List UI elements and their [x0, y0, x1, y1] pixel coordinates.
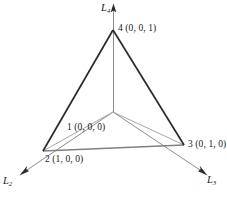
vertex-label-3: 3 (0, 1, 0)	[188, 140, 226, 150]
outer-edge-4-2	[43, 30, 113, 151]
outer-edge-4-3	[113, 30, 184, 145]
axis-label-L2-subscript: 2	[9, 180, 13, 188]
simplex-diagram-graphic	[0, 0, 227, 197]
axis-label-L4-subscript: 4	[107, 7, 111, 15]
figure-container: 4 (0, 0, 1) 1 (0, 0, 0) 2 (1, 0, 0) 3 (0…	[0, 0, 227, 197]
axis-label-L4: L4	[101, 3, 110, 15]
base-edge-2-3	[43, 145, 184, 151]
axis-label-L2: L2	[3, 176, 12, 188]
vertex-label-4: 4 (0, 0, 1)	[118, 24, 156, 34]
arrowhead-L2-icon	[20, 166, 29, 176]
vertex-label-1: 1 (0, 0, 0)	[67, 123, 105, 133]
vertex-label-2: 2 (1, 0, 0)	[45, 155, 83, 165]
axis-label-L3: L3	[207, 175, 216, 187]
axis-label-L3-subscript: 3	[213, 179, 217, 187]
